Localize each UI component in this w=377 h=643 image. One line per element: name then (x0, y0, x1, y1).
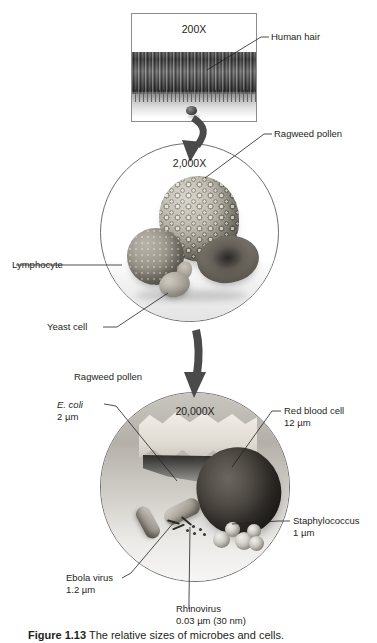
label-ebola-virus-size: 1.2 µm (66, 584, 113, 596)
magnification-label-2000x: 2,000X (101, 157, 278, 169)
label-ragweed-pollen-bottom: Ragweed pollen (74, 371, 142, 383)
label-e-coli: E. coli 2 µm (57, 399, 83, 422)
connector-arrow-2-shaft (196, 330, 199, 374)
label-e-coli-name: E. coli (57, 399, 83, 410)
figure-caption-label: Figure 1.13 (28, 629, 86, 641)
label-human-hair: Human hair (271, 31, 320, 43)
label-ragweed-pollen-top: Ragweed pollen (274, 128, 342, 140)
group-shadow (135, 290, 247, 301)
figure-caption-text: The relative sizes of microbes and cells… (89, 629, 284, 641)
label-rhinovirus-name: Rhinovirus (176, 603, 221, 614)
connector-arrow-1-shaft (193, 118, 203, 146)
label-staphylococcus-size: 1 µm (293, 527, 360, 539)
pollen-speck (186, 106, 197, 115)
magnification-circle-20000x: 20,000X (100, 392, 290, 582)
human-hair-image (131, 52, 257, 94)
label-e-coli-size: 2 µm (57, 411, 83, 423)
label-rhinovirus: Rhinovirus 0.03 µm (30 nm) (176, 603, 246, 626)
magnification-circle-2000x: 2,000X (100, 143, 279, 322)
label-red-blood-cell-size: 12 µm (284, 417, 344, 429)
label-rhinovirus-size: 0.03 µm (30 nm) (176, 615, 246, 627)
label-ebola-virus: Ebola virus 1.2 µm (66, 572, 113, 595)
label-red-blood-cell-name: Red blood cell (284, 405, 344, 416)
label-ebola-virus-name: Ebola virus (66, 572, 113, 583)
label-lymphocyte: Lymphocyte (12, 259, 63, 271)
magnification-panel-200x: 200X (131, 13, 257, 122)
figure-caption: Figure 1.13 The relative sizes of microb… (28, 628, 368, 642)
label-staphylococcus: Staphylococcus 1 µm (293, 515, 360, 538)
rhinovirus-particles (185, 525, 207, 537)
label-red-blood-cell: Red blood cell 12 µm (284, 405, 344, 428)
staphylococcus-cluster (213, 521, 265, 553)
label-staphylococcus-name: Staphylococcus (293, 515, 360, 526)
label-yeast-cell: Yeast cell (47, 321, 87, 333)
magnification-label-20000x: 20,000X (101, 405, 289, 417)
magnification-label-200x: 200X (132, 23, 256, 35)
pollen-speck-shadow (188, 115, 200, 118)
